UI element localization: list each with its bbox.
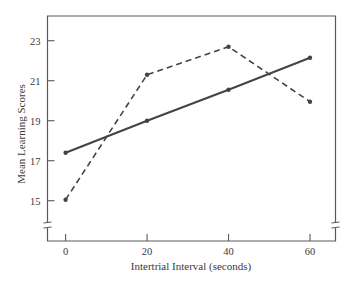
axis-break-left-lower	[44, 227, 52, 228]
solid-line-point-20	[145, 119, 149, 123]
x-axis-ticks: 0204060	[63, 234, 315, 257]
y-tick-label-23: 23	[30, 36, 41, 47]
x-tick-label-0: 0	[63, 246, 68, 257]
solid-line-point-40	[226, 88, 230, 92]
y-axis-title: Mean Learning Scores	[15, 84, 27, 184]
dashed-line-point-0	[63, 198, 67, 202]
solid-line-point-60	[308, 56, 312, 60]
x-axis-title: Intertrial Interval (seconds)	[131, 260, 252, 273]
series-lines	[63, 45, 312, 202]
dashed-line-path	[66, 47, 310, 200]
axis-break-left-upper	[44, 222, 52, 223]
axis-break-right-lower	[332, 227, 340, 228]
y-tick-label-19: 19	[30, 116, 41, 127]
x-tick-label-40: 40	[223, 246, 234, 257]
dashed-line-point-40	[226, 45, 230, 49]
y-tick-label-15: 15	[30, 196, 41, 207]
y-axis-ticks: 1517192123	[30, 36, 55, 207]
plot-frame	[44, 16, 340, 241]
solid-line-point-0	[63, 151, 67, 155]
frame-bottom-border	[48, 228, 336, 241]
dashed-line-point-20	[145, 73, 149, 77]
y-tick-label-17: 17	[30, 156, 41, 167]
axis-break-right-upper	[332, 222, 340, 223]
dashed-line-point-60	[308, 100, 312, 104]
chart: 1517192123 0204060 Intertrial Interval (…	[0, 0, 353, 284]
solid-line-path	[66, 58, 310, 153]
x-tick-label-20: 20	[142, 246, 153, 257]
x-tick-label-60: 60	[305, 246, 316, 257]
frame-top-border	[48, 16, 336, 223]
y-tick-label-21: 21	[30, 76, 41, 87]
